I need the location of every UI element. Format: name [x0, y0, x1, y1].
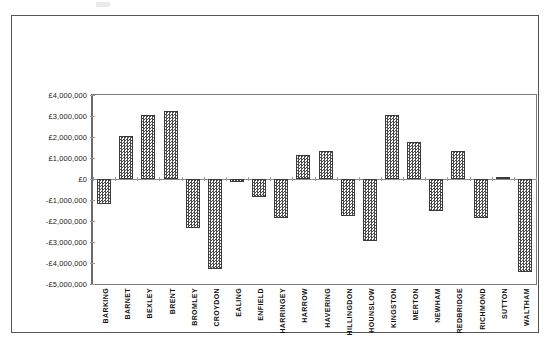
- y-axis-tick-mark: [90, 137, 95, 138]
- x-axis-tick-mark: [315, 177, 316, 181]
- bar[interactable]: [164, 111, 178, 179]
- x-axis-tick-mark: [425, 177, 426, 181]
- bar-slot: [447, 95, 469, 284]
- x-axis-tick-label: REDBRIDGE: [456, 288, 463, 334]
- bar-slot: [337, 95, 359, 284]
- bar-slot: [182, 95, 204, 284]
- stray-artifact-mark: [96, 2, 110, 7]
- x-axis-tick-mark: [270, 177, 271, 181]
- bar-slot: [514, 95, 536, 284]
- x-axis-tick-mark: [292, 177, 293, 181]
- bar-slot: [381, 95, 403, 284]
- x-axis-tick-label: BARKING: [102, 288, 109, 323]
- bar-slot: [204, 95, 226, 284]
- y-axis-tick-mark: [90, 158, 95, 159]
- x-axis-tick-mark: [337, 177, 338, 181]
- bar[interactable]: [496, 177, 510, 179]
- y-axis-tick-label: -£3,000,000: [46, 238, 87, 247]
- bar[interactable]: [363, 179, 377, 241]
- x-axis-label-slot: BEXLEY: [135, 288, 157, 344]
- bar[interactable]: [296, 155, 310, 179]
- y-axis-tick-label: £1,000,000: [48, 154, 87, 163]
- bar-slot: [315, 95, 337, 284]
- bar[interactable]: [429, 179, 443, 211]
- x-axis-tick-mark: [447, 177, 448, 181]
- x-axis-tick-mark: [403, 177, 404, 181]
- x-axis-tick-label: HOUNSLOW: [368, 288, 375, 333]
- x-axis-label-slot: KINGSTON: [379, 288, 401, 344]
- x-axis-label-slot: BRENT: [157, 288, 179, 344]
- bar-slot: [359, 95, 381, 284]
- x-axis-label-slot: WALTHAM: [512, 288, 534, 344]
- y-axis-tick-mark: [90, 221, 95, 222]
- x-axis-tick-mark: [93, 177, 94, 181]
- bar[interactable]: [141, 115, 155, 179]
- y-axis-tick-mark: [90, 284, 95, 285]
- x-axis-tick-mark: [492, 177, 493, 181]
- x-axis-label-slot: HOUNSLOW: [357, 288, 379, 344]
- x-axis-tick-mark: [536, 177, 537, 181]
- y-axis-tick-mark: [90, 242, 95, 243]
- x-axis-tick-label: HAVERING: [324, 288, 331, 328]
- bar[interactable]: [230, 179, 244, 182]
- x-axis-label-slot: ENFIELD: [246, 288, 268, 344]
- chart-frame: £4,000,000£3,000,000£2,000,000£1,000,000…: [11, 15, 539, 333]
- x-axis-tick-label: BROMLEY: [191, 288, 198, 326]
- y-axis-labels: £4,000,000£3,000,000£2,000,000£1,000,000…: [24, 94, 87, 285]
- x-axis-tick-label: EALING: [235, 288, 242, 317]
- x-axis-tick-mark: [182, 177, 183, 181]
- x-axis-label-slot: EALING: [224, 288, 246, 344]
- bar[interactable]: [407, 142, 421, 179]
- y-axis-tick-mark: [90, 200, 95, 201]
- bar[interactable]: [474, 179, 488, 218]
- x-axis-tick-label: HILLINGDON: [346, 288, 353, 336]
- bar[interactable]: [97, 179, 111, 204]
- x-axis-tick-label: BARNET: [124, 288, 131, 320]
- x-axis-label-slot: BROMLEY: [180, 288, 202, 344]
- x-axis-tick-mark: [248, 177, 249, 181]
- y-axis-tick-label: -£2,000,000: [46, 217, 87, 226]
- x-axis-tick-label: HARRINGEY: [279, 288, 286, 334]
- x-axis-label-slot: SUTTON: [490, 288, 512, 344]
- x-axis-tick-label: RICHMOND: [479, 288, 486, 330]
- x-axis-label-slot: MERTON: [401, 288, 423, 344]
- bar[interactable]: [518, 179, 532, 272]
- bar[interactable]: [252, 179, 266, 197]
- x-axis-tick-mark: [204, 177, 205, 181]
- bar-slot: [137, 95, 159, 284]
- y-axis-tick-mark: [90, 263, 95, 264]
- x-axis-tick-mark: [381, 177, 382, 181]
- bar-slot: [226, 95, 248, 284]
- bars-layer: [93, 95, 536, 284]
- y-axis-tick-mark: [90, 95, 95, 96]
- x-axis-label-slot: CROYDON: [202, 288, 224, 344]
- bar[interactable]: [119, 136, 133, 179]
- bar[interactable]: [341, 179, 355, 216]
- x-axis-tick-mark: [115, 177, 116, 181]
- bar[interactable]: [451, 151, 465, 179]
- bar-slot: [115, 95, 137, 284]
- x-axis-tick-label: CROYDON: [213, 288, 220, 327]
- bar[interactable]: [208, 179, 222, 269]
- x-axis-labels: BARKINGBARNETBEXLEYBRENTBROMLEYCROYDONEA…: [91, 288, 537, 344]
- y-axis-tick-label: -£5,000,000: [46, 280, 87, 289]
- x-axis-tick-label: KINGSTON: [390, 288, 397, 328]
- x-axis-tick-label: HARROW: [301, 288, 308, 323]
- bar[interactable]: [186, 179, 200, 228]
- bar-slot: [93, 95, 115, 284]
- x-axis-tick-mark: [159, 177, 160, 181]
- x-axis-label-slot: BARNET: [113, 288, 135, 344]
- x-axis-label-slot: HARROW: [290, 288, 312, 344]
- bar[interactable]: [385, 115, 399, 179]
- x-axis-label-slot: NEWHAM: [423, 288, 445, 344]
- x-axis-tick-label: SUTTON: [501, 288, 508, 319]
- bar[interactable]: [319, 151, 333, 179]
- x-axis-label-slot: HARRINGEY: [268, 288, 290, 344]
- x-axis-label-slot: HILLINGDON: [335, 288, 357, 344]
- bar-slot: [270, 95, 292, 284]
- y-axis-tick-label: -£1,000,000: [46, 196, 87, 205]
- bar-slot: [248, 95, 270, 284]
- y-axis-tick-mark: [90, 116, 95, 117]
- x-axis-label-slot: BARKING: [91, 288, 113, 344]
- bar[interactable]: [274, 179, 288, 218]
